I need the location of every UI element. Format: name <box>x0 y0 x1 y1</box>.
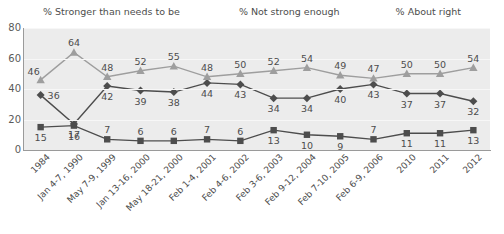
data-value-label: 13 <box>467 136 479 146</box>
x-axis-category-labels: 1984Jan 4-7, 1990May 7-9, 1999Jan 13-16,… <box>24 152 490 234</box>
data-value-label: 52 <box>268 57 280 67</box>
legend-item-about-right[interactable]: % About right <box>367 5 461 17</box>
chart-legend: % Stronger than needs to be % Not strong… <box>0 0 504 22</box>
data-value-label: 11 <box>434 139 446 149</box>
y-axis-tick-20: 20 <box>8 115 21 125</box>
data-value-label: 49 <box>334 61 346 71</box>
data-value-label: 54 <box>301 54 313 64</box>
data-value-label: 50 <box>434 60 446 70</box>
line-chart: % Stronger than needs to be % Not strong… <box>0 0 504 234</box>
y-axis-tick-0: 0 <box>15 145 21 155</box>
legend-label-about-right: % About right <box>396 6 461 17</box>
data-value-label: 48 <box>201 63 213 73</box>
data-value-label: 43 <box>234 90 246 100</box>
data-value-label: 52 <box>134 57 146 67</box>
data-value-label: 47 <box>367 64 379 74</box>
legend-marker-triangle <box>367 5 391 17</box>
data-value-label: 34 <box>268 104 280 114</box>
data-value-label: 50 <box>234 60 246 70</box>
data-value-label: 37 <box>401 100 413 110</box>
data-value-label: 48 <box>101 63 113 73</box>
y-axis-tick-60: 60 <box>8 54 21 64</box>
data-value-label: 36 <box>48 91 60 101</box>
data-value-label: 40 <box>334 95 346 105</box>
legend-label-not-strong-enough: % Not strong enough <box>239 6 340 17</box>
data-value-label: 64 <box>68 38 80 48</box>
data-value-labels: 1516766761310971111133617423938444334344… <box>24 28 490 150</box>
data-value-label: 54 <box>467 54 479 64</box>
legend-marker-diamond <box>210 5 234 17</box>
data-value-label: 44 <box>201 89 213 99</box>
data-value-label: 42 <box>101 92 113 102</box>
y-axis-tick-40: 40 <box>8 84 21 94</box>
y-axis-tick-labels: 020406080 <box>0 0 21 234</box>
data-value-label: 46 <box>28 67 40 77</box>
legend-item-stronger-than-needs-to-be[interactable]: % Stronger than needs to be <box>14 5 180 17</box>
data-value-label: 37 <box>434 100 446 110</box>
data-value-label: 15 <box>35 133 47 143</box>
y-axis-tick-80: 80 <box>8 23 21 33</box>
legend-label-stronger-than-needs-to-be: % Stronger than needs to be <box>43 6 180 17</box>
data-value-label: 34 <box>301 104 313 114</box>
data-value-label: 32 <box>467 107 479 117</box>
data-value-label: 17 <box>68 130 80 140</box>
data-value-label: 50 <box>401 60 413 70</box>
data-value-label: 9 <box>337 142 343 152</box>
legend-item-not-strong-enough[interactable]: % Not strong enough <box>210 5 340 17</box>
data-value-label: 10 <box>301 141 313 151</box>
data-value-label: 43 <box>367 90 379 100</box>
data-value-label: 38 <box>168 98 180 108</box>
data-value-label: 55 <box>168 52 180 62</box>
data-value-label: 39 <box>134 97 146 107</box>
